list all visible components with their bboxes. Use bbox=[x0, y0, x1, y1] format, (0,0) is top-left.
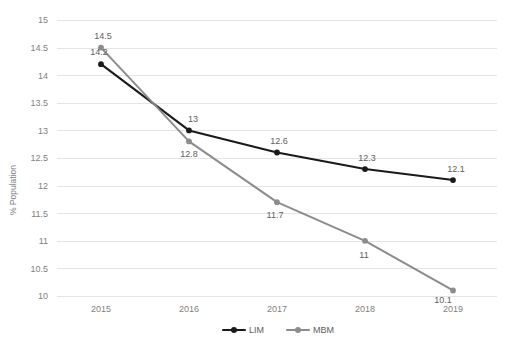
data-point-marker bbox=[186, 139, 192, 145]
data-label: 10.1 bbox=[434, 295, 452, 305]
data-point-marker bbox=[274, 199, 280, 205]
y-axis-title: % Population bbox=[8, 165, 18, 215]
y-axis-tick-label: 11.5 bbox=[31, 209, 48, 219]
data-label: 13 bbox=[188, 114, 198, 124]
data-label: 11.7 bbox=[267, 210, 284, 220]
y-axis-tick-label: 10.5 bbox=[30, 264, 48, 274]
y-axis-tick-label: 14 bbox=[38, 71, 48, 81]
y-axis-tick-label: 14.5 bbox=[30, 43, 48, 53]
y-axis-tick-label: 10 bbox=[38, 291, 48, 301]
legend-label: LIM bbox=[249, 325, 264, 335]
y-axis-tick-label: 13.5 bbox=[30, 98, 48, 108]
data-label: 12.6 bbox=[270, 136, 288, 146]
chart-container: 1010.51111.51212.51313.51414.515 2015201… bbox=[0, 0, 510, 352]
data-point-marker bbox=[450, 177, 456, 183]
data-label: 12.8 bbox=[180, 149, 198, 159]
data-label: 11 bbox=[359, 250, 368, 260]
x-axis-tick-label: 2018 bbox=[355, 304, 375, 314]
data-label: 12.3 bbox=[358, 153, 376, 163]
data-point-marker bbox=[274, 150, 280, 156]
data-point-marker bbox=[98, 61, 104, 67]
y-axis-tick-label: 13 bbox=[38, 126, 48, 136]
y-axis-tick-label: 12 bbox=[38, 181, 48, 191]
x-axis-tick-label: 2017 bbox=[267, 304, 287, 314]
y-axis-tick-label: 11 bbox=[39, 236, 48, 246]
x-axis-tick-label: 2016 bbox=[179, 304, 199, 314]
line-chart: 1010.51111.51212.51313.51414.515 2015201… bbox=[0, 0, 510, 352]
legend-marker-swatch bbox=[231, 327, 237, 333]
x-axis-tick-label: 2015 bbox=[91, 304, 111, 314]
data-label: 14.2 bbox=[90, 47, 108, 57]
data-point-marker bbox=[450, 288, 456, 294]
x-axis-tick-label: 2019 bbox=[443, 304, 463, 314]
data-label: 12.1 bbox=[447, 164, 465, 174]
legend-label: MBM bbox=[313, 325, 334, 335]
y-axis-tick-label: 15 bbox=[38, 15, 48, 25]
legend-marker-swatch bbox=[295, 327, 301, 333]
data-label: 14.5 bbox=[94, 31, 112, 41]
y-axis-tick-label: 12.5 bbox=[30, 153, 48, 163]
data-point-marker bbox=[186, 127, 192, 133]
data-point-marker bbox=[362, 238, 368, 244]
data-point-marker bbox=[362, 166, 368, 172]
